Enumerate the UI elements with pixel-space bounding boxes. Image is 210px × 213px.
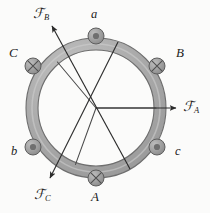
- force-label-FA: ℱA: [183, 99, 199, 114]
- force-subscript-FC: C: [45, 193, 51, 203]
- marker-b-dot-icon: [30, 144, 36, 150]
- marker-B: [149, 58, 165, 74]
- force-symbol-FA: ℱ: [183, 98, 194, 114]
- marker-C: [25, 58, 41, 74]
- marker-label-b: b: [11, 145, 17, 158]
- force-symbol-FB: ℱ: [33, 5, 44, 21]
- marker-label-A: A: [91, 190, 99, 203]
- marker-A: [88, 170, 104, 186]
- force-label-FC: ℱC: [34, 187, 51, 202]
- figure-container: ℱB ℱA ℱC a B c A b C: [0, 0, 210, 213]
- marker-label-B: B: [176, 46, 184, 59]
- marker-c-dot-icon: [154, 144, 160, 150]
- marker-label-c: c: [175, 145, 181, 158]
- marker-label-C: C: [9, 46, 18, 59]
- marker-b: [25, 139, 41, 155]
- force-subscript-FA: A: [194, 105, 199, 115]
- force-label-FB: ℱB: [33, 6, 49, 21]
- marker-label-a: a: [91, 8, 97, 21]
- force-subscript-FB: B: [44, 12, 49, 22]
- schematic-svg: [0, 0, 210, 213]
- marker-a: [88, 28, 104, 44]
- force-symbol-FC: ℱ: [34, 186, 45, 202]
- marker-a-dot-icon: [93, 33, 99, 39]
- marker-c: [149, 139, 165, 155]
